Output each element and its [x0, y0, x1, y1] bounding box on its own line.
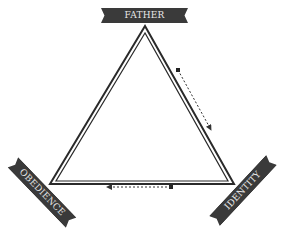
arrow-identity-to-obedience: [109, 185, 173, 189]
banner-father: FATHER: [101, 8, 188, 23]
diagram-canvas: FATHER OBEDIENCE IDENTITY: [0, 0, 287, 230]
triangle-outer: [50, 26, 234, 184]
banner-father-label: FATHER: [125, 10, 165, 20]
triangle-inner: [56, 33, 228, 181]
